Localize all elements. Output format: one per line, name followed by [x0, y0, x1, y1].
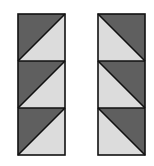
right-tile-2: [98, 61, 145, 108]
right-tile-1: [98, 14, 145, 61]
right-tile-3: [98, 108, 145, 155]
left-tile-2: [18, 61, 65, 108]
right-strip-graphic: [97, 13, 146, 156]
left-strip: [17, 13, 66, 156]
left-tile-1: [18, 14, 65, 61]
right-strip: [97, 13, 146, 156]
left-strip-graphic: [17, 13, 66, 156]
left-tile-3: [18, 108, 65, 155]
